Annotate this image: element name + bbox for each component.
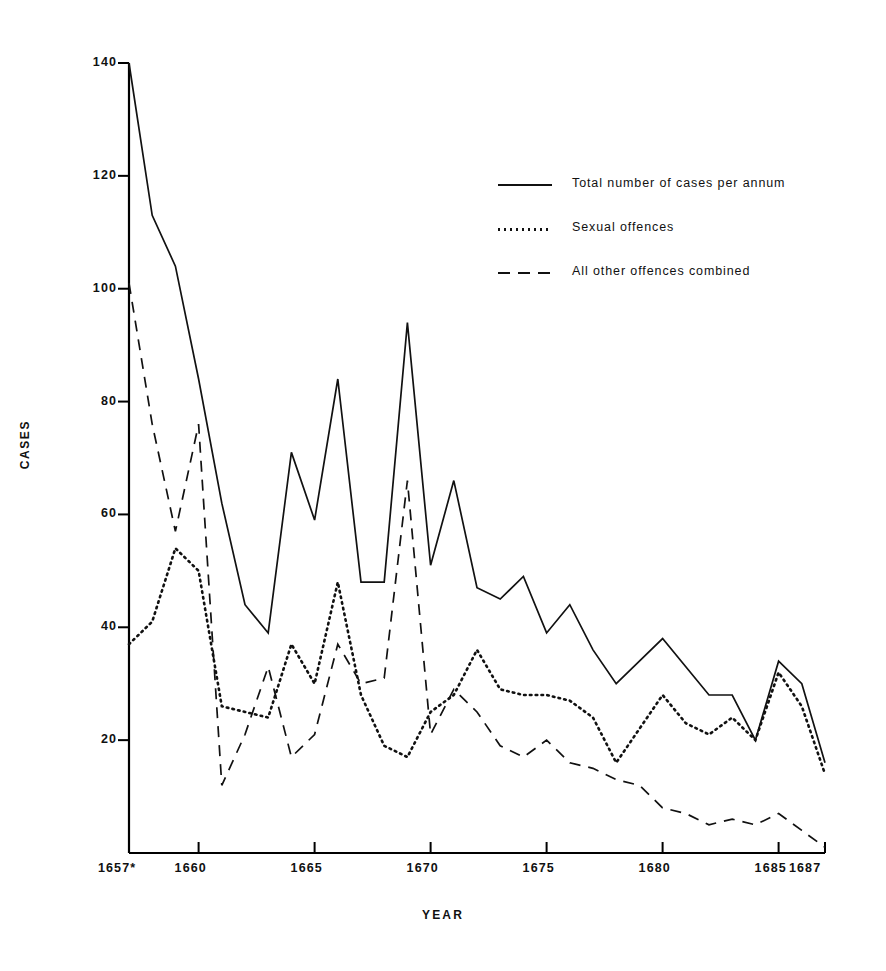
series-line-dashed	[129, 283, 825, 847]
x-tick-label: 1670	[407, 861, 439, 875]
chart-figure: 20406080100120140 1657*16601665167016751…	[0, 0, 886, 971]
x-tick-label: 1685	[755, 861, 787, 875]
legend-swatch-dotted-line	[498, 228, 552, 231]
y-tick-label: 60	[55, 506, 117, 520]
y-tick-label: 80	[55, 394, 117, 408]
y-axis-ticks	[118, 63, 129, 740]
x-tick-label: 1687	[789, 861, 821, 875]
legend-item-sexual-offences: Sexual offences	[498, 220, 858, 264]
x-tick-label: 1680	[639, 861, 671, 875]
y-tick-label: 100	[55, 281, 117, 295]
legend-swatch-solid-line	[498, 184, 552, 186]
y-tick-label: 40	[55, 619, 117, 633]
x-tick-label: 1660	[175, 861, 207, 875]
legend-item-total: Total number of cases per annum	[498, 176, 858, 220]
y-tick-label: 140	[55, 55, 117, 69]
x-tick-label: 1657*	[98, 861, 136, 875]
legend-swatch-dashed-line	[498, 272, 552, 274]
legend-label-other-offences: All other offences combined	[572, 264, 750, 278]
legend-label-total: Total number of cases per annum	[572, 176, 785, 190]
chart-legend: Total number of cases per annum Sexual o…	[498, 176, 858, 308]
plot-canvas	[0, 0, 886, 971]
y-tick-label: 20	[55, 732, 117, 746]
legend-item-other-offences: All other offences combined	[498, 264, 858, 308]
series-line-dotted	[129, 548, 825, 774]
x-axis-title: YEAR	[0, 908, 886, 922]
series-line-solid	[129, 63, 825, 763]
y-axis-title: CASES	[18, 420, 32, 469]
x-tick-label: 1675	[523, 861, 555, 875]
x-tick-label: 1665	[291, 861, 323, 875]
x-axis-ticks	[129, 842, 825, 853]
legend-label-sexual-offences: Sexual offences	[572, 220, 674, 234]
y-tick-label: 120	[55, 168, 117, 182]
